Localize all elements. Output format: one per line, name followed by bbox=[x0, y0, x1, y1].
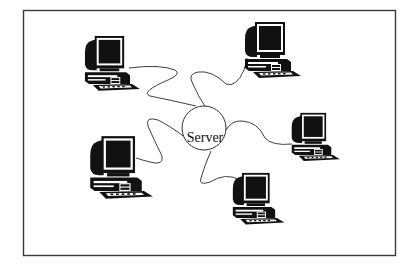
desktop-computer-icon bbox=[90, 136, 153, 199]
computer-bottom-left bbox=[90, 136, 153, 199]
computer-bottom bbox=[233, 173, 285, 225]
desktop-computer-icon bbox=[233, 173, 285, 225]
cable-bottom-left bbox=[136, 119, 186, 163]
desktop-computer-icon bbox=[85, 36, 140, 91]
cable-top-right bbox=[191, 58, 247, 108]
cable-right bbox=[226, 121, 292, 144]
computer-top-left bbox=[85, 36, 140, 91]
server-node: Server bbox=[182, 106, 226, 150]
computer-right bbox=[292, 113, 340, 161]
network-diagram: Server bbox=[0, 0, 409, 269]
computer-top-right bbox=[245, 22, 301, 78]
desktop-computer-icon bbox=[292, 113, 340, 161]
cable-top-left bbox=[129, 66, 196, 106]
desktop-computer-icon bbox=[245, 22, 301, 78]
server-label: Server bbox=[187, 130, 224, 145]
cable-bottom bbox=[200, 151, 240, 183]
